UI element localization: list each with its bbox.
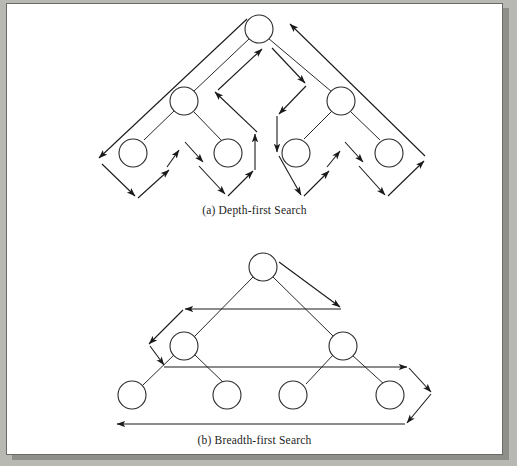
bfs-tree-nodes <box>118 253 404 409</box>
page-content: (a) Depth-first Search <box>7 4 502 454</box>
bfs-tree-edges <box>143 276 385 385</box>
node-right <box>329 332 357 360</box>
node-root <box>249 253 277 281</box>
node-right-left <box>279 381 307 409</box>
node-left <box>170 332 198 360</box>
figure-b-caption: (b) Breadth-first Search <box>7 434 502 446</box>
scanned-page: (a) Depth-first Search <box>6 3 503 455</box>
node-left-left <box>118 381 146 409</box>
node-right-right <box>376 381 404 409</box>
breadth-first-search-diagram <box>7 4 504 456</box>
node-left-right <box>213 381 241 409</box>
